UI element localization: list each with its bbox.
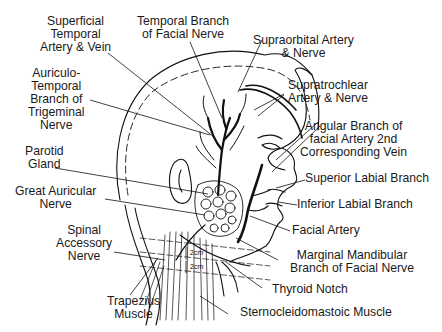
- label-marginal-mandibular-branch: Marginal Mandibular Branch of Facial Ner…: [290, 249, 414, 275]
- label-supraorbital-artery-nerve: Supraorbital Artery & Nerve: [253, 34, 354, 60]
- label-spinal-accessory-nerve: Spinal Accessory Nerve: [56, 224, 112, 263]
- label-sternocleidomastoid-muscle: Sternocleidomastoic Muscle: [240, 306, 392, 319]
- label-angular-branch-facial-artery: Angular Branch of facial Artery 2nd Corr…: [300, 120, 407, 159]
- label-supratrochlear-artery-nerve: Supratrochlear Artery & Nerve: [288, 79, 368, 105]
- anatomy-diagram: 2cm 2cm Superficial Temporal Artery & Ve…: [0, 0, 442, 332]
- skull-outline: [117, 51, 319, 200]
- measurement-2cm-lower: 2cm: [190, 263, 203, 270]
- label-superior-labial-branch: Superior Labial Branch: [305, 172, 429, 185]
- label-superficial-temporal-artery-vein: Superficial Temporal Artery & Vein: [40, 15, 111, 54]
- label-trapezius-muscle: Trapezius Muscle: [107, 295, 160, 321]
- label-temporal-branch-facial-nerve: Temporal Branch of Facial Nerve: [137, 15, 229, 41]
- label-great-auricular-nerve: Great Auricular Nerve: [15, 185, 96, 211]
- measurement-2cm-upper: 2cm: [190, 249, 203, 256]
- label-parotid-gland: Parotid Gland: [25, 145, 64, 171]
- label-inferior-labial-branch: Inferior Labial Branch: [297, 198, 413, 211]
- label-facial-artery: Facial Artery: [292, 224, 360, 237]
- label-thyroid-notch: Thyroid Notch: [272, 283, 348, 296]
- label-auriculo-temporal-nerve: Auriculo- Temporal Branch of Trigeminal …: [28, 67, 84, 132]
